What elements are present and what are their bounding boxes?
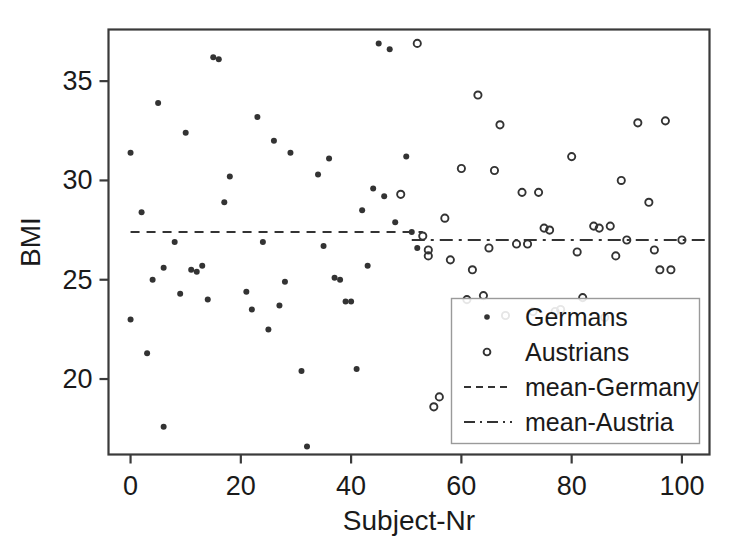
x-tick-label: 40	[336, 471, 366, 501]
x-tick-label: 60	[446, 471, 476, 501]
x-tick-label: 80	[557, 471, 587, 501]
data-point-german	[315, 171, 321, 177]
y-tick-label: 35	[62, 66, 92, 96]
data-point-german	[177, 291, 183, 297]
data-point-german	[392, 219, 398, 225]
legend-label: mean-Austria	[525, 408, 674, 436]
data-point-german	[210, 54, 216, 60]
x-axis-title: Subject-Nr	[343, 505, 475, 536]
x-tick-label: 0	[123, 471, 138, 501]
data-point-german	[359, 207, 365, 213]
data-point-german	[205, 297, 211, 303]
data-point-german	[128, 316, 134, 322]
data-point-german	[321, 243, 327, 249]
figure-background	[0, 0, 740, 546]
data-point-german	[376, 40, 382, 46]
data-point-german	[199, 263, 205, 269]
plot-canvas: 020406080100 20253035 Subject-Nr BMI Ger…	[0, 0, 740, 546]
data-point-german	[370, 185, 376, 191]
data-point-german	[260, 239, 266, 245]
data-point-german	[304, 444, 310, 450]
legend-symbol-filled-dot	[484, 314, 490, 320]
data-point-german	[276, 303, 282, 309]
data-point-german	[150, 277, 156, 283]
data-point-german	[172, 239, 178, 245]
data-point-german	[343, 299, 349, 305]
data-point-german	[128, 150, 134, 156]
data-point-german	[161, 424, 167, 430]
legend-label: Germans	[525, 303, 628, 331]
data-point-german	[183, 130, 189, 136]
data-point-german	[155, 100, 161, 106]
data-point-german	[144, 350, 150, 356]
y-tick-label: 20	[62, 364, 92, 394]
data-point-german	[216, 56, 222, 62]
data-point-german	[271, 138, 277, 144]
data-point-german	[227, 173, 233, 179]
data-point-german	[243, 289, 249, 295]
data-point-german	[265, 326, 271, 332]
data-point-german	[194, 269, 200, 275]
legend-label: mean-Germany	[525, 373, 699, 401]
y-tick-label: 30	[62, 165, 92, 195]
data-point-german	[188, 267, 194, 273]
data-point-german	[282, 279, 288, 285]
data-point-german	[365, 263, 371, 269]
data-point-german	[326, 156, 332, 162]
bmi-scatter-figure: 020406080100 20253035 Subject-Nr BMI Ger…	[0, 0, 740, 546]
x-tick-label: 20	[226, 471, 256, 501]
data-point-german	[337, 277, 343, 283]
data-point-german	[298, 368, 304, 374]
data-point-german	[249, 307, 255, 313]
data-point-german	[287, 150, 293, 156]
data-point-german	[221, 199, 227, 205]
data-point-german	[381, 193, 387, 199]
data-point-german	[387, 46, 393, 52]
y-axis-title: BMI	[15, 217, 46, 267]
legend-label: Austrians	[525, 338, 629, 366]
data-point-german	[403, 154, 409, 160]
data-point-german	[332, 275, 338, 281]
data-point-german	[414, 245, 420, 251]
data-point-german	[254, 114, 260, 120]
y-tick-label: 25	[62, 265, 92, 295]
data-point-german	[354, 366, 360, 372]
legend: GermansAustriansmean-Germanymean-Austria	[452, 299, 700, 444]
data-point-german	[139, 209, 145, 215]
data-point-german	[348, 299, 354, 305]
data-point-german	[161, 265, 167, 271]
x-tick-label: 100	[659, 471, 704, 501]
